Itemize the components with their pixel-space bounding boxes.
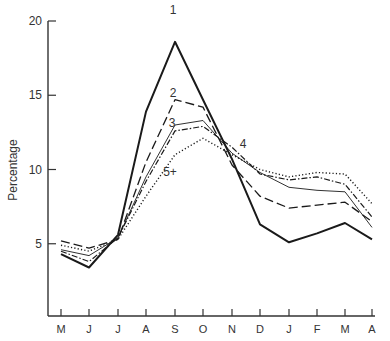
x-tick-label: M	[56, 323, 65, 335]
series-line-5plus	[61, 138, 372, 251]
y-tick-label: 15	[29, 88, 43, 102]
series-labels: 12345+	[163, 3, 247, 179]
line-chart: 5101520MJJASONDJFMA 12345+ Percentage	[0, 0, 390, 341]
x-tick-label: A	[142, 323, 150, 335]
x-tick-label: D	[256, 323, 264, 335]
series-label-1: 1	[170, 3, 177, 17]
x-tick-label: A	[368, 323, 376, 335]
x-tick-label: N	[228, 323, 236, 335]
y-tick-label: 10	[29, 163, 43, 177]
series-group	[61, 42, 372, 268]
x-tick-label: J	[86, 323, 92, 335]
x-tick-label: M	[340, 323, 349, 335]
x-tick-label: O	[199, 323, 208, 335]
series-label-3: 3	[169, 116, 176, 130]
x-tick-label: J	[115, 323, 121, 335]
series-line-2	[61, 100, 372, 249]
series-line-1	[61, 42, 372, 268]
x-tick-label: F	[314, 323, 321, 335]
x-tick-label: J	[286, 323, 292, 335]
axes: 5101520MJJASONDJFMA	[29, 14, 377, 335]
series-label-2: 2	[170, 86, 177, 100]
y-tick-label: 20	[29, 14, 43, 28]
series-line-4	[61, 126, 372, 261]
series-line-3	[61, 121, 372, 256]
series-label-4: 4	[240, 137, 247, 151]
series-label-5plus: 5+	[163, 165, 177, 179]
y-tick-label: 5	[35, 237, 42, 251]
y-axis-label: Percentage	[6, 139, 20, 201]
x-tick-label: S	[171, 323, 178, 335]
